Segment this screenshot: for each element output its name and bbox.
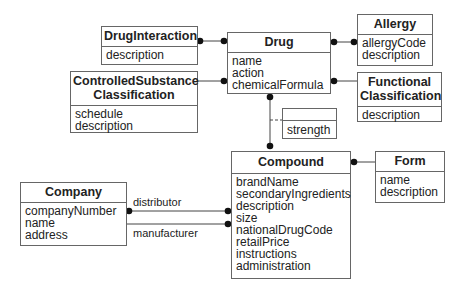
class-drug: Drug name action chemicalFormula xyxy=(227,32,331,94)
class-functional-classification: Functional Classification description xyxy=(357,72,442,122)
class-name-line1: Functional xyxy=(360,75,439,89)
association-label-manufacturer: manufacturer xyxy=(133,227,198,239)
class-name-line2: Classification xyxy=(360,89,439,103)
class-controlled-substance-classification: ControlledSubstance Classification sched… xyxy=(70,71,198,133)
association-label-distributor: distributor xyxy=(133,196,181,208)
class-name xyxy=(283,109,336,121)
attribute: description xyxy=(380,186,440,198)
class-name: Compound xyxy=(232,152,350,174)
class-name: Company xyxy=(21,183,126,203)
attribute: description xyxy=(106,49,193,61)
class-name: Drug xyxy=(228,33,330,53)
class-compound: Compound brandName secondaryIngredients … xyxy=(231,151,351,279)
class-form: Form name description xyxy=(375,151,445,203)
attribute: strength xyxy=(287,124,332,136)
class-name: ControlledSubstance Classification xyxy=(71,72,197,106)
class-name: DrugInteraction xyxy=(102,27,197,47)
attribute: description xyxy=(362,109,437,121)
attribute: administration xyxy=(236,260,346,272)
class-company: Company companyNumber name address xyxy=(20,182,127,246)
class-name: Functional Classification xyxy=(358,73,441,107)
class-name: Allergy xyxy=(358,15,432,35)
association-class-strength: strength xyxy=(282,108,337,139)
class-name-line1: ControlledSubstance xyxy=(73,74,195,88)
attribute: description xyxy=(362,49,428,61)
class-allergy: Allergy allergyCode description xyxy=(357,14,433,66)
class-drug-interaction: DrugInteraction description xyxy=(101,26,198,65)
attribute: chemicalFormula xyxy=(232,79,326,91)
class-name: Form xyxy=(376,152,444,172)
attribute: description xyxy=(75,120,193,132)
attribute: address xyxy=(25,229,122,241)
class-name-line2: Classification xyxy=(73,88,195,102)
uml-class-diagram: DrugInteraction description ControlledSu… xyxy=(0,0,462,291)
